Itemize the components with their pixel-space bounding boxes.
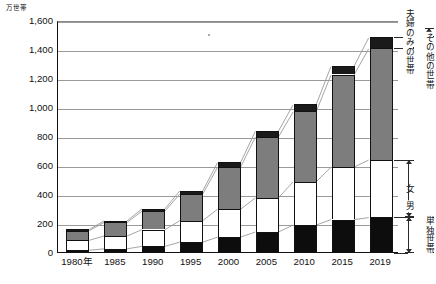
x-tick-label: 1995 (180, 256, 201, 267)
bar-segment-女[interactable] (370, 160, 393, 218)
x-axis-tick-labels: 1980年19851990199520002005201020152019 (57, 256, 398, 272)
plot-area (57, 21, 398, 253)
bar-segment-その他の世帯[interactable] (180, 191, 203, 194)
bar-segment-夫婦のみの世帯[interactable] (142, 211, 165, 230)
bar-segment-夫婦のみの世帯[interactable] (370, 48, 393, 160)
bar-segment-その他の世帯[interactable] (66, 229, 89, 230)
bar-segment-女[interactable] (142, 230, 165, 247)
y-tick-label: 600 (1, 161, 53, 171)
connector-line (89, 249, 104, 250)
y-tick-label: 1,000 (1, 103, 53, 113)
bar-segment-女[interactable] (66, 240, 89, 250)
bar-1995[interactable] (180, 21, 203, 253)
bracket-label-single-households: 単独世帯 (423, 215, 433, 255)
bar-segment-その他の世帯[interactable] (142, 209, 165, 211)
y-tick-label: 400 (1, 190, 53, 200)
connector-line (127, 209, 142, 221)
connector-line (203, 167, 218, 194)
bar-segment-夫婦のみの世帯[interactable] (104, 222, 127, 236)
bar-segment-その他の世帯[interactable] (104, 221, 127, 223)
bar-segment-男[interactable] (66, 250, 89, 253)
connector-line (354, 38, 369, 67)
x-tick-label: 2019 (369, 256, 390, 267)
bar-segment-その他の世帯[interactable] (332, 66, 355, 75)
bar-2019[interactable] (370, 21, 393, 253)
bar-segment-夫婦のみの世帯[interactable] (256, 137, 279, 198)
bar-segment-その他の世帯[interactable] (370, 37, 393, 48)
bar-segment-夫婦のみの世帯[interactable] (218, 167, 241, 209)
connector-line (278, 112, 293, 137)
y-tick-label: 200 (1, 219, 53, 229)
x-tick-label: 1990 (142, 256, 163, 267)
bar-segment-夫婦のみの世帯[interactable] (332, 75, 355, 167)
bar-segment-女[interactable] (294, 182, 317, 225)
x-tick-label: 2005 (256, 256, 277, 267)
bar-segment-女[interactable] (104, 236, 127, 249)
y-tick-label: 0 (1, 248, 53, 258)
x-tick-label: 2015 (331, 256, 352, 267)
scan-speck (208, 34, 210, 36)
connector-line (240, 232, 255, 237)
bar-segment-男[interactable] (256, 232, 279, 253)
bar-segment-男[interactable] (294, 225, 317, 253)
connector-line (316, 167, 331, 182)
bar-segment-女[interactable] (332, 167, 355, 220)
bracket-label-other-households: その他の世帯 (423, 32, 433, 90)
bar-segment-夫婦のみの世帯[interactable] (66, 231, 89, 241)
bar-segment-男[interactable] (370, 217, 393, 253)
y-tick-label: 800 (1, 132, 53, 142)
bar-1985[interactable] (104, 21, 127, 253)
y-tick-label: 1,400 (1, 45, 53, 55)
bar-segment-夫婦のみの世帯[interactable] (294, 111, 317, 181)
bar-segment-男[interactable] (180, 242, 203, 253)
connector-line (203, 237, 218, 242)
bar-segment-女[interactable] (218, 209, 241, 237)
connector-line (354, 49, 369, 75)
connector-line (165, 242, 180, 246)
bar-2015[interactable] (332, 21, 355, 253)
bar-segment-女[interactable] (180, 221, 203, 243)
connector-line (165, 191, 180, 209)
bar-segment-夫婦のみの世帯[interactable] (180, 194, 203, 221)
bar-2005[interactable] (256, 21, 279, 253)
connector-line (127, 211, 142, 222)
x-tick-label: 1985 (104, 256, 125, 267)
connector-line (203, 209, 218, 220)
leader-line (394, 253, 408, 254)
bar-2000[interactable] (218, 21, 241, 253)
y-tick-label: 1,600 (1, 16, 53, 26)
bar-segment-男[interactable] (142, 246, 165, 253)
bracket-label-couple-only: 夫婦のみの世帯 (403, 9, 413, 77)
connector-line (240, 131, 255, 162)
chart-container: 万世帯 02004006008001,0001,2001,4001,600 19… (0, 0, 436, 284)
bar-segment-男[interactable] (218, 237, 241, 253)
bar-segment-その他の世帯[interactable] (294, 104, 317, 111)
bar-segment-男[interactable] (104, 249, 127, 253)
bar-segment-男[interactable] (332, 220, 355, 253)
bracket-label-male: 男 (403, 201, 413, 212)
connector-line (127, 230, 142, 236)
connector-line (240, 198, 255, 209)
connector-line (89, 236, 104, 240)
bar-segment-その他の世帯[interactable] (218, 162, 241, 167)
bracket-annotations: 夫婦のみの世帯女男その他の世帯単独世帯 (396, 0, 436, 284)
x-tick-label: 1980年 (61, 256, 92, 267)
y-axis-tick-labels: 02004006008001,0001,2001,4001,600 (0, 0, 53, 284)
bar-2010[interactable] (294, 21, 317, 253)
bar-segment-その他の世帯[interactable] (256, 131, 279, 137)
connector-line (127, 246, 142, 248)
x-tick-label: 2010 (294, 256, 315, 267)
bar-segment-女[interactable] (256, 198, 279, 232)
connector-line (278, 225, 293, 232)
x-tick-label: 2000 (218, 256, 239, 267)
connector-line (354, 218, 369, 220)
y-tick-label: 1,200 (1, 74, 53, 84)
connector-line (316, 67, 331, 105)
bar-1990[interactable] (142, 21, 165, 253)
bar-1980[interactable] (66, 21, 89, 253)
connector-line (240, 137, 255, 167)
connector-line (89, 222, 104, 230)
